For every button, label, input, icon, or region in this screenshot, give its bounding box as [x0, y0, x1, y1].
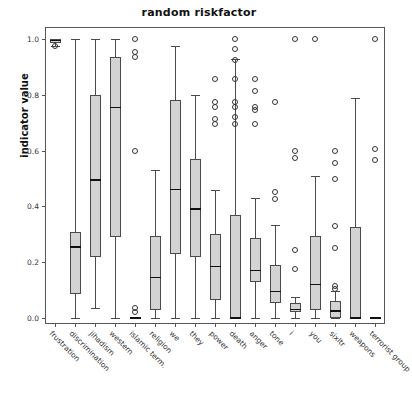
x-tick-mark [335, 324, 336, 327]
box-iqr [250, 238, 261, 281]
whisker-cap-upper [271, 225, 280, 226]
box-iqr [170, 100, 181, 253]
whisker-cap-lower [211, 318, 220, 319]
outlier-point [252, 76, 258, 82]
whisker-lower [215, 300, 216, 318]
whisker-cap-upper [211, 190, 220, 191]
y-tick-mark [42, 151, 45, 152]
y-tick-mark [42, 39, 45, 40]
outlier-point [132, 54, 138, 60]
median-line [170, 189, 181, 191]
outlier-point [272, 189, 278, 195]
box-iqr [270, 265, 281, 303]
outlier-point [232, 104, 238, 110]
whisker-cap-lower [331, 318, 340, 319]
y-tick-mark [42, 95, 45, 96]
outlier-point [272, 99, 278, 105]
whisker-cap-upper [351, 98, 360, 99]
outlier-point [332, 245, 338, 251]
x-tick-label: anger [248, 329, 270, 351]
median-line [330, 310, 341, 312]
box-iqr [350, 227, 361, 318]
whisker-cap-upper [311, 176, 320, 177]
whisker-cap-upper [251, 198, 260, 199]
outlier-point [132, 309, 138, 315]
whisker-cap-lower [151, 318, 160, 319]
box-iqr [230, 215, 241, 318]
y-tick-label: 0.6 [9, 146, 39, 155]
box-flat [370, 317, 381, 319]
whisker-upper [95, 39, 96, 95]
outlier-point [372, 36, 378, 42]
y-tick-mark [42, 262, 45, 263]
x-tick-label: sixltr [328, 329, 347, 348]
y-tick-label: 0.2 [9, 258, 39, 267]
median-line [230, 317, 241, 319]
y-tick-mark [42, 206, 45, 207]
median-line [50, 40, 61, 42]
whisker-cap-upper [171, 46, 180, 47]
outlier-point [232, 76, 238, 82]
outlier-point [232, 114, 238, 120]
x-tick-mark [295, 324, 296, 327]
outlier-point [332, 148, 338, 154]
whisker-lower [95, 257, 96, 309]
y-tick-label: 0.4 [9, 202, 39, 211]
x-tick-mark [195, 324, 196, 327]
whisker-cap-lower [311, 318, 320, 319]
whisker-upper [275, 225, 276, 265]
whisker-cap-lower [71, 318, 80, 319]
y-tick-label: 0.8 [9, 90, 39, 99]
median-line [150, 277, 161, 279]
whisker-lower [195, 257, 196, 318]
box-iqr [150, 236, 161, 310]
outlier-point [232, 36, 238, 42]
outlier-point [332, 160, 338, 166]
whisker-lower [75, 294, 76, 318]
y-tick-mark [42, 318, 45, 319]
x-tick-mark [355, 324, 356, 327]
outlier-point [212, 104, 218, 110]
median-line [210, 266, 221, 268]
outlier-point [212, 76, 218, 82]
whisker-cap-upper [291, 297, 300, 298]
outlier-point [292, 266, 298, 272]
x-tick-mark [375, 324, 376, 327]
outlier-point [252, 107, 258, 113]
outlier-point [232, 121, 238, 127]
whisker-cap-upper [71, 39, 80, 40]
outlier-point [292, 247, 298, 253]
whisker-cap-lower [111, 318, 120, 319]
outlier-point [132, 36, 138, 42]
whisker-cap-upper [91, 39, 100, 40]
x-tick-mark [275, 324, 276, 327]
x-tick-mark [55, 324, 56, 327]
whisker-upper [175, 46, 176, 100]
whisker-lower [175, 254, 176, 318]
box-iqr [90, 95, 101, 257]
x-tick-mark [215, 324, 216, 327]
whisker-upper [75, 39, 76, 232]
outlier-point [292, 148, 298, 154]
x-tick-label: tone [268, 329, 286, 347]
median-line [270, 291, 281, 293]
x-tick-mark [175, 324, 176, 327]
whisker-cap-lower [91, 308, 100, 309]
whisker-upper [215, 190, 216, 235]
outlier-point [132, 148, 138, 154]
y-tick-label: 0.0 [9, 314, 39, 323]
whisker-upper [195, 95, 196, 159]
whisker-cap-lower [291, 318, 300, 319]
whisker-cap-lower [271, 318, 280, 319]
outlier-point [212, 121, 218, 127]
x-tick-mark [315, 324, 316, 327]
whisker-upper [335, 291, 336, 301]
whisker-cap-upper [111, 39, 120, 40]
box-iqr [310, 236, 321, 310]
box-iqr [110, 57, 121, 237]
median-line [70, 246, 81, 248]
x-tick-label: you [308, 329, 324, 345]
whisker-cap-upper [191, 95, 200, 96]
whisker-upper [115, 39, 116, 57]
